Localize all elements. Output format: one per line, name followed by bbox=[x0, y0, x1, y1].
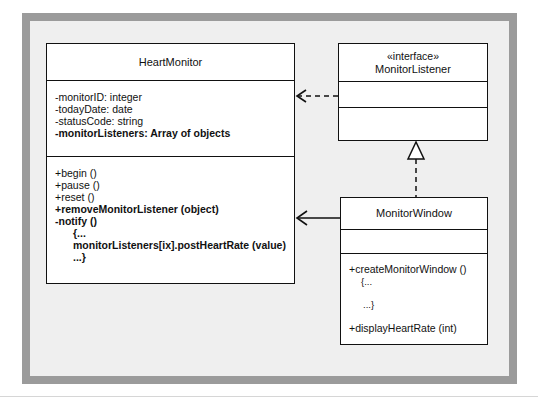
association-arrow bbox=[297, 211, 340, 225]
connectors bbox=[0, 0, 538, 399]
dependency-arrow bbox=[297, 90, 338, 102]
realization-arrow bbox=[408, 142, 424, 197]
